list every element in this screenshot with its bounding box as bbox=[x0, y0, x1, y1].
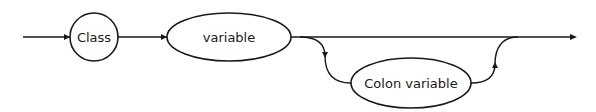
arrow-icon bbox=[322, 52, 328, 58]
colon-variable-label: Colon variable bbox=[364, 76, 457, 91]
arrow-icon bbox=[161, 34, 167, 40]
entry-edge bbox=[23, 34, 70, 40]
variable-node: variable bbox=[167, 13, 291, 61]
optional-branch-rejoin-edge bbox=[471, 37, 518, 83]
class-label: Class bbox=[77, 30, 111, 45]
arrow-icon bbox=[492, 62, 498, 68]
optional-branch-down-edge bbox=[300, 37, 351, 83]
class-node: Class bbox=[70, 13, 118, 61]
class-to-variable-edge bbox=[118, 34, 167, 40]
syntax-diagram: Class variable Colon variable bbox=[0, 0, 596, 112]
variable-label: variable bbox=[203, 30, 255, 45]
colon-variable-node: Colon variable bbox=[351, 58, 471, 108]
main-exit-edge bbox=[291, 34, 577, 40]
arrow-icon bbox=[64, 34, 70, 40]
arrow-icon bbox=[570, 34, 577, 40]
